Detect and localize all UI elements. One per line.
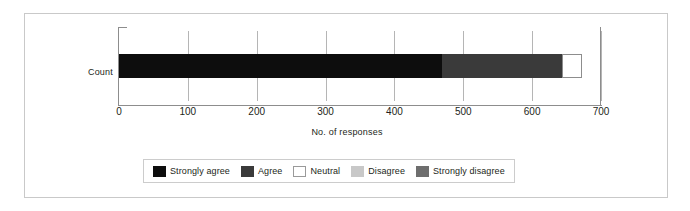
legend-item-label: Neutral — [310, 166, 340, 176]
legend-swatch-icon — [293, 166, 306, 177]
bar-segment-agree — [442, 54, 562, 78]
legend-item-neutral[interactable]: Neutral — [293, 166, 340, 177]
y-axis-top-tick — [118, 27, 127, 28]
x-tick-label: 700 — [581, 106, 621, 117]
x-tick-label: 0 — [99, 106, 139, 117]
category-label-count: Count — [35, 67, 113, 77]
x-tick-label: 400 — [374, 106, 414, 117]
legend-swatch-icon — [416, 166, 429, 177]
legend-item-label: Disagree — [368, 166, 405, 176]
legend-item-strongly-agree[interactable]: Strongly agree — [153, 166, 230, 177]
legend-swatch-icon — [351, 166, 364, 177]
legend-item-label: Agree — [258, 166, 283, 176]
legend-item-strongly-disagree[interactable]: Strongly disagree — [416, 166, 505, 177]
legend-swatch-icon — [241, 166, 254, 177]
x-tick-label: 600 — [512, 106, 552, 117]
chart-figure: Count 0100200300400500600700 No. of resp… — [24, 13, 668, 198]
x-tick-label: 500 — [443, 106, 483, 117]
stacked-bar-count — [119, 54, 582, 78]
x-tick-label: 200 — [237, 106, 277, 117]
bar-segment-strongly-agree — [119, 54, 442, 78]
legend-item-label: Strongly disagree — [433, 166, 505, 176]
x-tick-label: 300 — [306, 106, 346, 117]
legend-swatch-icon — [153, 166, 166, 177]
legend-item-agree[interactable]: Agree — [241, 166, 283, 177]
legend-item-disagree[interactable]: Disagree — [351, 166, 405, 177]
gridline — [601, 31, 602, 101]
plot-area — [119, 31, 601, 101]
x-tick-label: 100 — [168, 106, 208, 117]
legend-item-label: Strongly agree — [170, 166, 230, 176]
x-axis-title: No. of responses — [25, 127, 669, 137]
chart-legend: Strongly agreeAgreeNeutralDisagreeStrong… — [143, 159, 515, 183]
bar-segment-neutral — [562, 54, 582, 78]
